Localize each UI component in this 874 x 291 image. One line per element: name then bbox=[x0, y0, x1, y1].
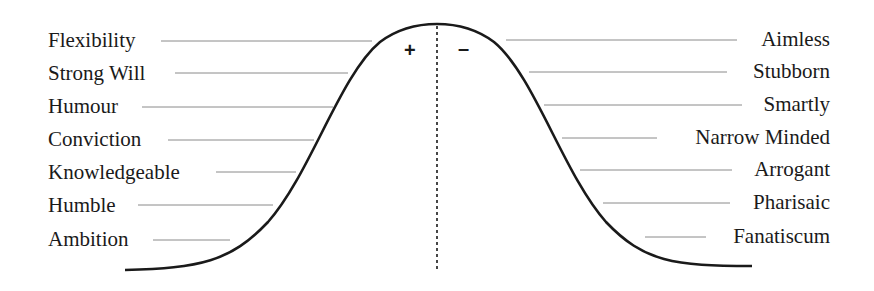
left-label-knowledgeable: Knowledgeable bbox=[48, 160, 180, 184]
plus-sign: + bbox=[404, 40, 416, 60]
left-label-conviction: Conviction bbox=[48, 127, 141, 151]
left-label-strong-will: Strong Will bbox=[48, 61, 145, 85]
right-label-narrow-minded: Narrow Minded bbox=[695, 125, 830, 149]
right-label-stubborn: Stubborn bbox=[753, 59, 830, 83]
right-label-fanatiscum: Fanatiscum bbox=[733, 224, 830, 248]
bell-curve bbox=[125, 24, 752, 270]
right-label-arrogant: Arrogant bbox=[754, 157, 830, 181]
right-label-smartly: Smartly bbox=[764, 92, 831, 116]
left-leader-lines bbox=[138, 41, 372, 240]
right-label-aimless: Aimless bbox=[761, 27, 830, 51]
minus-sign: – bbox=[458, 38, 469, 58]
right-label-pharisaic: Pharisaic bbox=[753, 190, 830, 214]
left-label-ambition: Ambition bbox=[48, 227, 129, 251]
left-label-flexibility: Flexibility bbox=[48, 28, 136, 52]
left-label-humble: Humble bbox=[48, 193, 116, 217]
left-label-humour: Humour bbox=[48, 94, 118, 118]
bell-curve-diagram: + – Flexibility Strong Will Humour Convi… bbox=[0, 0, 874, 291]
